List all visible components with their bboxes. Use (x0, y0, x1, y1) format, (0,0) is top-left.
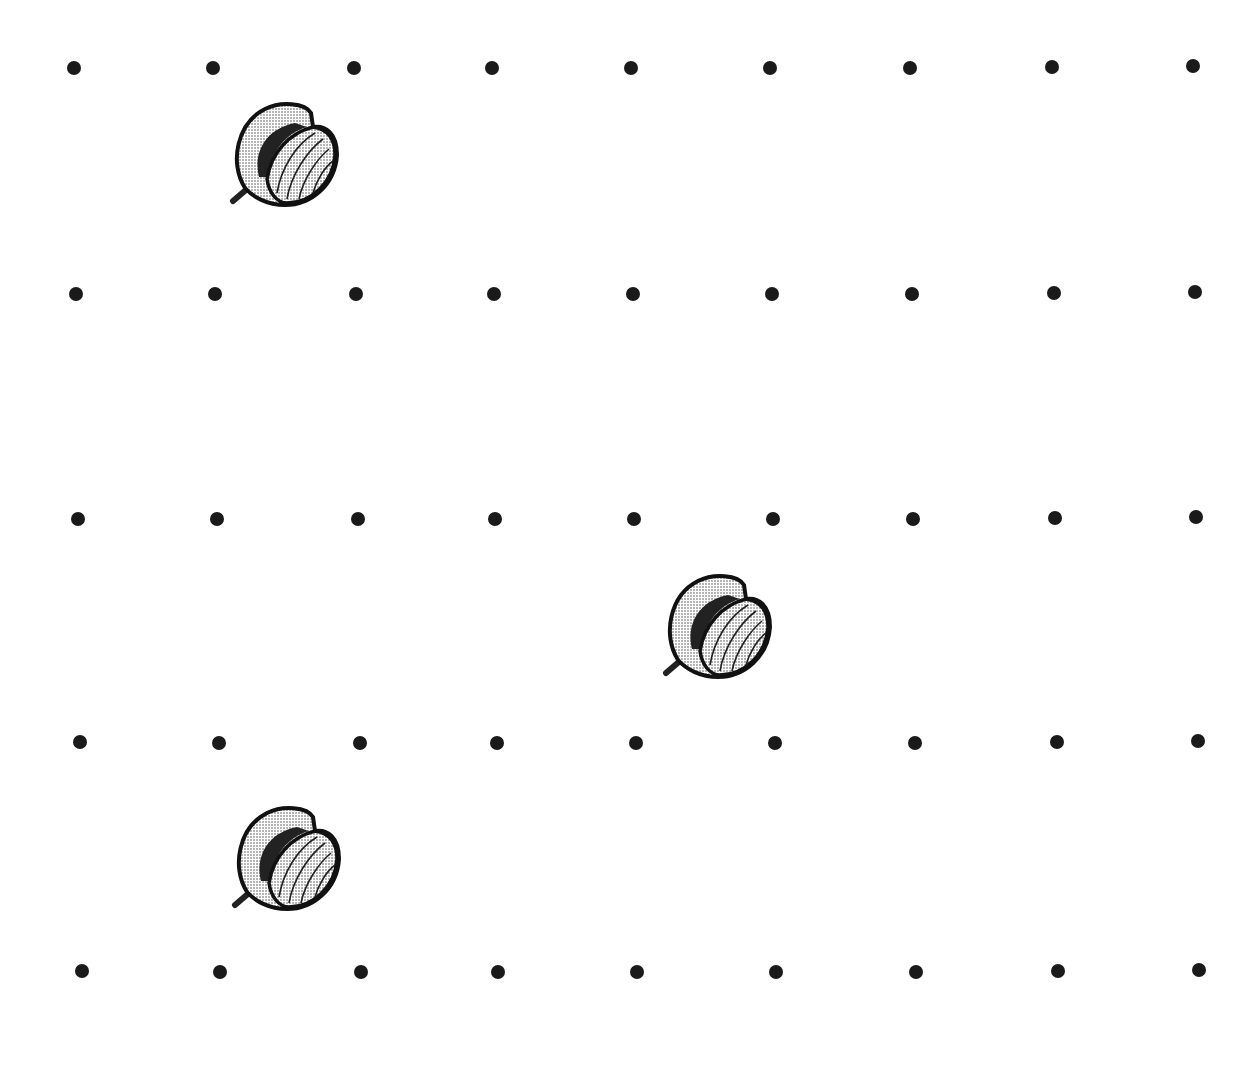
grid-dot (1188, 285, 1202, 299)
grid-dot (1192, 963, 1206, 977)
grid-dot (1047, 286, 1061, 300)
grid-dot (75, 964, 89, 978)
grid-dot (490, 736, 504, 750)
grid-dot (485, 61, 499, 75)
grid-dot (347, 61, 361, 75)
grid-dot (354, 965, 368, 979)
grid-dot (1186, 59, 1200, 73)
grid-dot (210, 512, 224, 526)
grid-dot (73, 735, 87, 749)
grid-dot (213, 965, 227, 979)
nut-icon (215, 93, 345, 223)
grid-dot (627, 512, 641, 526)
grid-dot (353, 736, 367, 750)
grid-dot (766, 512, 780, 526)
nut-icon (217, 797, 347, 927)
grid-dot (906, 512, 920, 526)
grid-dot (765, 287, 779, 301)
grid-dot (71, 512, 85, 526)
grid-dot (768, 736, 782, 750)
grid-dot (67, 61, 81, 75)
grid-dot (1191, 734, 1205, 748)
grid-dot (908, 736, 922, 750)
grid-dot (909, 965, 923, 979)
grid-dot (1050, 735, 1064, 749)
grid-dot (1048, 511, 1062, 525)
grid-dot (624, 61, 638, 75)
grid-dot (349, 287, 363, 301)
nut-icon (648, 565, 778, 695)
grid-dot (351, 512, 365, 526)
grid-dot (488, 512, 502, 526)
grid-dot (212, 736, 226, 750)
grid-dot (763, 61, 777, 75)
grid-dot (905, 287, 919, 301)
grid-dot (630, 965, 644, 979)
grid-dot (769, 965, 783, 979)
grid-dot (69, 287, 83, 301)
grid-dot (626, 287, 640, 301)
grid-dot (208, 287, 222, 301)
grid-dot (903, 61, 917, 75)
grid-dot (1051, 964, 1065, 978)
grid-dot (491, 965, 505, 979)
grid-dot (206, 61, 220, 75)
grid-dot (629, 736, 643, 750)
grid-dot (487, 287, 501, 301)
grid-dot (1189, 510, 1203, 524)
grid-dot (1045, 60, 1059, 74)
